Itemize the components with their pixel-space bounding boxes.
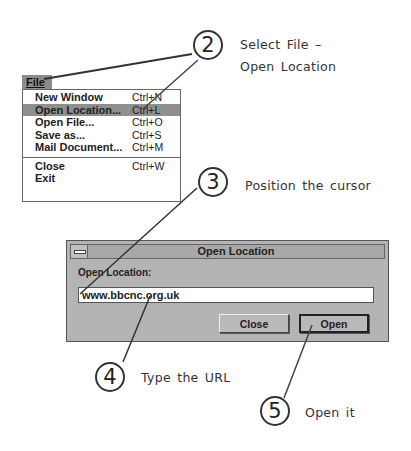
callout-5: 5 [260, 396, 290, 426]
dialog-titlebar[interactable]: Open Location [70, 244, 385, 259]
menu-item-shortcut: Ctrl+M [132, 141, 163, 154]
menu-item-label: Open Location... [35, 104, 121, 117]
menu-item-label: Exit [35, 172, 55, 185]
callout-number: 2 [201, 33, 214, 57]
callout-number: 3 [206, 170, 219, 194]
menu-item-label: New Window [35, 91, 103, 104]
menu-item-label: Close [35, 160, 65, 173]
menu-item-shortcut: Ctrl+O [132, 116, 163, 129]
menu-item-exit[interactable]: Exit [23, 172, 180, 185]
menu-item-close[interactable]: Close Ctrl+W [23, 160, 180, 173]
open-location-dialog: Open Location Open Location: Close Open [66, 240, 389, 342]
callout-3-text: Position the cursor [245, 175, 371, 197]
open-button[interactable]: Open [299, 314, 369, 333]
menu-item-shortcut: Ctrl+L [132, 104, 160, 117]
menu-item-label: Mail Document... [35, 141, 122, 154]
menu-separator [23, 157, 180, 158]
callout-number: 5 [268, 399, 281, 423]
callout-3: 3 [198, 167, 228, 197]
dialog-title: Open Location [88, 245, 384, 258]
callout-text-line: Open Location [240, 56, 336, 78]
callout-text-line: Select File – [240, 34, 336, 56]
menu-item-shortcut: Ctrl+N [132, 91, 162, 104]
callout-4-text: Type the URL [141, 367, 231, 389]
menu-item-shortcut: Ctrl+S [132, 129, 161, 142]
system-menu-icon[interactable] [71, 245, 88, 258]
callout-2-text: Select File – Open Location [240, 34, 336, 78]
close-button[interactable]: Close [219, 314, 289, 333]
callout-5-text: Open it [305, 402, 355, 424]
menu-item-open-location[interactable]: Open Location... Ctrl+L [23, 104, 180, 117]
menu-item-mail-document[interactable]: Mail Document... Ctrl+M [23, 141, 180, 154]
menu-item-new-window[interactable]: New Window Ctrl+N [23, 91, 180, 104]
url-input[interactable] [78, 287, 374, 303]
menu-item-open-file[interactable]: Open File... Ctrl+O [23, 116, 180, 129]
file-menu-title[interactable]: File [22, 75, 52, 89]
menu-item-label: Save as... [35, 129, 85, 142]
menu-item-shortcut: Ctrl+W [132, 160, 164, 173]
menu-item-label: Open File... [35, 116, 94, 129]
menu-item-save-as[interactable]: Save as... Ctrl+S [23, 129, 180, 142]
file-menu-dropdown: New Window Ctrl+N Open Location... Ctrl+… [22, 89, 181, 202]
file-menu-title-label: File [26, 76, 45, 88]
callout-2: 2 [193, 30, 223, 60]
open-location-label: Open Location: [78, 267, 151, 278]
callout-4: 4 [95, 362, 125, 392]
callout-number: 4 [103, 365, 116, 389]
